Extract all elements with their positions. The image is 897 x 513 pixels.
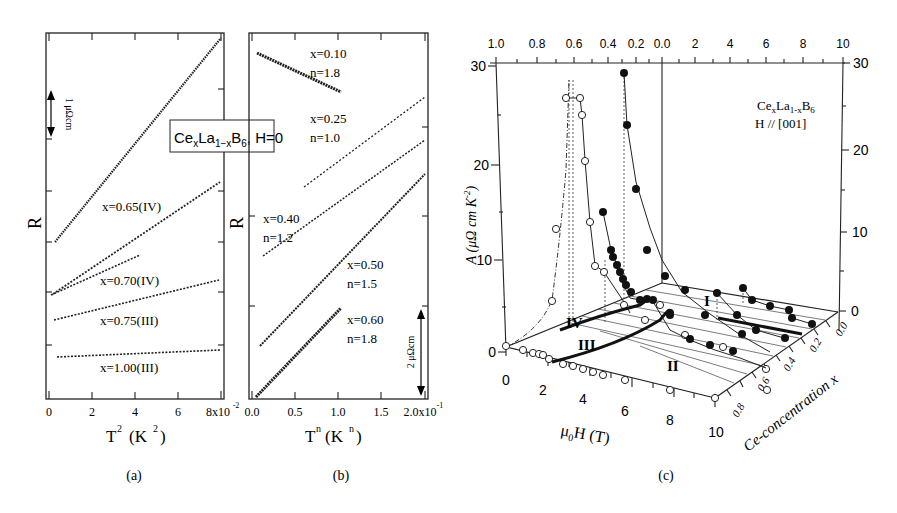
svg-text:20: 20 bbox=[473, 157, 489, 173]
dashdot-curve bbox=[506, 80, 569, 347]
caption-a: (a) bbox=[126, 468, 142, 484]
filled-curve-1 bbox=[624, 73, 770, 352]
xticks-b: 0.0 0.5 1.0 1.5 2.0x10 -1 bbox=[245, 401, 444, 419]
svg-text:0.5: 0.5 bbox=[288, 405, 303, 419]
panel-a: 1 μΩcm x=0.65(IV) x=0.70(IV) x=0.75(III)… bbox=[25, 33, 239, 484]
region-II: II bbox=[667, 358, 679, 374]
label-x100: x=1.00(III) bbox=[100, 360, 158, 375]
label-x065: x=0.65(IV) bbox=[102, 199, 161, 214]
series-x100 bbox=[57, 350, 220, 357]
region-IV: IV bbox=[566, 315, 583, 331]
svg-text:x=0.40: x=0.40 bbox=[263, 211, 300, 226]
svg-text:0.6: 0.6 bbox=[566, 37, 583, 51]
svg-text:6: 6 bbox=[621, 403, 629, 419]
xlabel-b: T n (K n ) bbox=[305, 423, 362, 446]
svg-text:2: 2 bbox=[153, 423, 158, 434]
scale-label-a: 1 μΩcm bbox=[64, 98, 75, 131]
svg-text:6: 6 bbox=[175, 405, 181, 419]
label-x070: x=0.70(IV) bbox=[100, 273, 159, 288]
svg-text:8: 8 bbox=[800, 37, 807, 51]
caption-b: (b) bbox=[333, 468, 350, 484]
panel-a-data bbox=[51, 38, 221, 357]
svg-text:0.4: 0.4 bbox=[600, 37, 617, 51]
xlabel-c: μ0H (T) bbox=[559, 421, 611, 449]
panel-b-series-labels: x=0.10 n=1.8 x=0.25 n=1.0 x=0.40 n=1.2 x… bbox=[263, 46, 384, 346]
svg-text:n=1.8: n=1.8 bbox=[310, 65, 340, 80]
region-III: III bbox=[578, 337, 596, 353]
svg-text:6: 6 bbox=[763, 37, 770, 51]
xlabel-a: T 2 (K 2 ) bbox=[106, 423, 166, 446]
panel-c-title: CexLa1-xB6 bbox=[757, 98, 815, 115]
label-x075: x=0.75(III) bbox=[100, 313, 158, 328]
svg-text:20: 20 bbox=[853, 142, 869, 158]
svg-text:T: T bbox=[305, 427, 316, 446]
svg-text:2: 2 bbox=[692, 37, 699, 51]
svg-text:10: 10 bbox=[708, 424, 724, 440]
field-ticks: 0 2 4 6 8 10 bbox=[502, 372, 724, 440]
ylabel-b: R bbox=[227, 217, 247, 229]
svg-text:10: 10 bbox=[836, 37, 850, 51]
region-I: I bbox=[704, 293, 710, 309]
right-z-ticks: 30 20 10 0 bbox=[851, 55, 869, 319]
svg-text:0.8: 0.8 bbox=[529, 37, 546, 51]
legend-box-ab: CexLa1−xB6, H=0 bbox=[170, 120, 283, 152]
svg-text:n=1.5: n=1.5 bbox=[347, 276, 377, 291]
svg-text:10: 10 bbox=[852, 224, 868, 240]
svg-text:n=1.0: n=1.0 bbox=[310, 130, 340, 145]
svg-text:2: 2 bbox=[539, 382, 547, 398]
svg-text:8: 8 bbox=[666, 412, 674, 428]
svg-text:): ) bbox=[160, 427, 166, 446]
caption-c: (c) bbox=[658, 468, 674, 484]
svg-text:8x10: 8x10 bbox=[206, 405, 230, 419]
panel-c-subtitle: H // [001] bbox=[755, 116, 806, 131]
panel-a-frame bbox=[46, 33, 224, 399]
svg-text:0: 0 bbox=[851, 303, 859, 319]
svg-text:0.2: 0.2 bbox=[628, 37, 645, 51]
svg-text:0.4: 0.4 bbox=[780, 355, 798, 373]
svg-text:0.0: 0.0 bbox=[654, 37, 671, 51]
svg-text:x=0.50: x=0.50 bbox=[347, 257, 384, 272]
svg-text:n: n bbox=[316, 423, 321, 434]
svg-text:4: 4 bbox=[132, 405, 138, 419]
scale-bar-a: 1 μΩcm bbox=[47, 90, 75, 137]
svg-text:n=1.8: n=1.8 bbox=[347, 331, 377, 346]
svg-text:n=1.2: n=1.2 bbox=[263, 230, 293, 245]
svg-text:1.5: 1.5 bbox=[374, 405, 389, 419]
top-ticks-c: 1.0 0.8 0.6 0.4 0.2 0.0 2 4 6 8 10 bbox=[488, 37, 850, 51]
panel-c: 1.0 0.8 0.6 0.4 0.2 0.0 2 4 6 8 10 30 20 bbox=[462, 37, 869, 484]
svg-text:4: 4 bbox=[579, 391, 587, 407]
svg-text:0.0: 0.0 bbox=[832, 320, 850, 338]
svg-text:0: 0 bbox=[46, 405, 52, 419]
right-z-axis bbox=[839, 63, 850, 330]
panel-a-ticks bbox=[46, 33, 224, 399]
svg-text:-1: -1 bbox=[437, 401, 444, 410]
panel-b: 2 μΩcm x=0.10 n=1.8 x=0.25 n=1.0 x=0.40 … bbox=[227, 33, 443, 484]
svg-text:0: 0 bbox=[488, 344, 496, 360]
svg-text:x=0.25: x=0.25 bbox=[310, 111, 347, 126]
svg-text:0: 0 bbox=[502, 372, 510, 388]
svg-text:1.0: 1.0 bbox=[488, 37, 505, 51]
ylabel-a: R bbox=[25, 217, 45, 229]
svg-text:0.8: 0.8 bbox=[729, 401, 747, 419]
ylabel-c: Ce-concentration x bbox=[740, 371, 841, 455]
xticks-a: 0 2 4 6 8x10 -2 bbox=[46, 401, 239, 419]
svg-text:x=0.60: x=0.60 bbox=[347, 312, 384, 327]
left-z-axis bbox=[488, 63, 506, 352]
scale-label-b: 2 μΩcm bbox=[405, 336, 416, 369]
svg-text:30: 30 bbox=[853, 55, 869, 71]
svg-text:0.2: 0.2 bbox=[806, 336, 824, 354]
svg-text:1.0: 1.0 bbox=[331, 405, 346, 419]
svg-text:T: T bbox=[106, 427, 117, 446]
scale-bar-b: 2 μΩcm bbox=[405, 309, 425, 396]
svg-text:2: 2 bbox=[117, 423, 122, 434]
series-x060 bbox=[256, 308, 341, 397]
svg-text:2: 2 bbox=[89, 405, 95, 419]
svg-text:): ) bbox=[356, 427, 362, 446]
svg-text:4: 4 bbox=[727, 37, 734, 51]
svg-text:0.0: 0.0 bbox=[245, 405, 260, 419]
top-axis-c bbox=[490, 57, 845, 63]
svg-text:(K: (K bbox=[325, 427, 344, 446]
svg-text:(K: (K bbox=[129, 427, 148, 446]
zlabel-c: A (μΩ cm K-2) bbox=[462, 185, 480, 265]
svg-text:30: 30 bbox=[470, 58, 486, 74]
